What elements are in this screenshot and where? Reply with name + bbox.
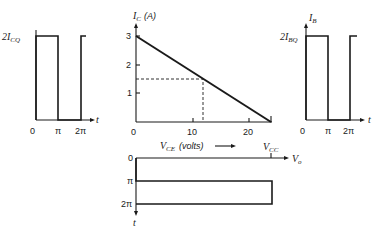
right-waveform-plot: IB 2IBQ 0 π 2π t — [280, 12, 371, 136]
y-tick-1: 1 — [127, 88, 132, 98]
center-x-label: VCE(volts) — [160, 140, 204, 153]
right-y-arrow-icon — [304, 23, 308, 28]
bottom-tick-0: 0 — [128, 153, 133, 163]
right-tick-0: 0 — [300, 126, 305, 136]
right-x-arrow-icon — [360, 118, 365, 122]
load-line-plot: 3 2 1 0 10 20 IC(A) VCE(volts) VCC — [126, 10, 279, 154]
arrow-right-icon — [231, 144, 236, 148]
left-tick-pi: π — [55, 126, 61, 136]
right-x-label: t — [368, 114, 371, 125]
x-tick-10: 10 — [187, 127, 197, 137]
right-y-label: IB — [308, 12, 317, 25]
transistor-switching-diagram: 2ICQ 0 π 2π t 3 2 1 0 10 20 IC(A) VCE(vo… — [0, 0, 383, 236]
bottom-tick-pi: π — [127, 176, 133, 186]
x-tick-20: 20 — [243, 127, 253, 137]
bottom-v-arrow-icon — [284, 156, 289, 160]
left-x-label: t — [96, 114, 99, 125]
right-tick-pi: π — [325, 126, 331, 136]
center-y-label: IC(A) — [132, 10, 156, 23]
right-square-wave — [306, 36, 357, 120]
left-tick-0: 0 — [30, 126, 35, 136]
left-square-wave — [36, 36, 86, 120]
vcc-label: VCC — [263, 141, 279, 154]
bottom-t-label: t — [133, 217, 136, 228]
left-waveform-plot: 2ICQ 0 π 2π t — [2, 30, 99, 136]
output-square-wave — [136, 158, 272, 204]
right-level-label: 2IBQ — [280, 31, 298, 44]
q-point-guides — [136, 79, 203, 122]
x-tick-0: 0 — [131, 127, 136, 137]
left-level-label: 2ICQ — [2, 31, 20, 44]
right-tick-2pi: 2π — [343, 126, 354, 136]
y-tick-3: 3 — [126, 31, 131, 41]
bottom-vo-label: Vo — [292, 153, 302, 166]
left-x-arrow-icon — [90, 118, 95, 122]
output-voltage-plot: 0 π 2π t Vo — [121, 153, 302, 228]
bottom-t-arrow-icon — [134, 211, 138, 216]
left-tick-2pi: 2π — [75, 126, 86, 136]
y-tick-2: 2 — [126, 60, 131, 70]
bottom-tick-2pi: 2π — [121, 199, 132, 209]
center-y-arrow-icon — [134, 23, 138, 28]
